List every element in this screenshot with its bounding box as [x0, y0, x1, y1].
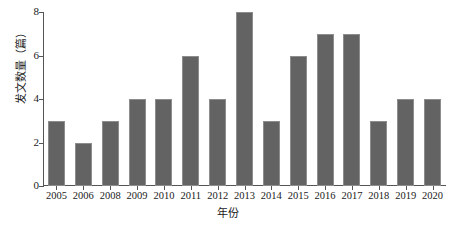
bar — [370, 121, 387, 186]
y-tick-label: 2 — [34, 136, 40, 149]
bar — [343, 34, 360, 186]
bar — [48, 121, 65, 186]
y-tick-mark — [39, 56, 44, 57]
y-tick-mark — [39, 186, 44, 187]
bars-container — [43, 12, 446, 186]
y-tick-mark — [39, 12, 44, 13]
bar — [317, 34, 334, 186]
bar — [182, 56, 199, 187]
bar — [155, 99, 172, 186]
y-tick-label: 4 — [34, 92, 40, 105]
y-tick: 2 — [43, 143, 44, 144]
y-tick: 0 — [43, 186, 44, 187]
bar — [397, 99, 414, 186]
y-axis-title: 发文数量（篇） — [13, 5, 29, 125]
bar — [209, 99, 226, 186]
bar — [129, 99, 146, 186]
bar-chart: 发文数量（篇） 02468 20052006200820092010201120… — [0, 0, 456, 227]
bar — [263, 121, 280, 186]
plot-area: 02468 — [43, 12, 446, 186]
bar — [75, 143, 92, 187]
bar — [290, 56, 307, 187]
y-tick-label: 8 — [34, 5, 40, 18]
y-tick: 8 — [43, 12, 44, 13]
x-axis-title: 年份 — [0, 206, 456, 220]
bar — [236, 12, 253, 186]
bar — [102, 121, 119, 186]
y-tick-label: 6 — [34, 49, 40, 62]
bar — [424, 99, 441, 186]
y-tick: 6 — [43, 56, 44, 57]
x-tick-label: 2020 — [417, 189, 449, 202]
y-tick-label: 0 — [34, 179, 40, 192]
y-tick-mark — [39, 143, 44, 144]
y-tick-mark — [39, 99, 44, 100]
y-tick: 4 — [43, 99, 44, 100]
